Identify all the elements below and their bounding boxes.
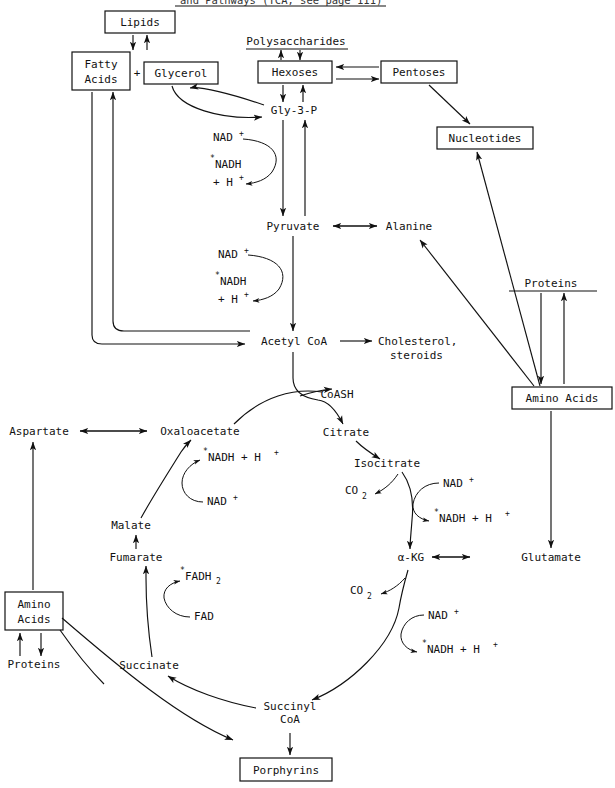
cofactor-fad: FAD: [194, 610, 214, 623]
arrow-aminoacids-to-alanine: [420, 240, 534, 386]
nadh-kgdh-text: NADH + H: [427, 643, 480, 656]
cofactor-nadh-glycolysis: * NADH + H +: [210, 154, 244, 189]
label-pyruvate: Pyruvate: [267, 220, 320, 233]
nad-kgdh-sup: +: [454, 607, 459, 616]
cofactor-nad-mdh: NAD +: [207, 493, 238, 508]
arc-oxaloacetate-to-citrate: [234, 391, 322, 424]
proteins-left-text: Proteins: [8, 658, 61, 671]
box-amino-acids-left[interactable]: Amino Acids: [5, 592, 63, 630]
box-glycerol-label: Glycerol: [155, 67, 208, 80]
label-oxaloacetate: Oxaloacetate: [160, 425, 239, 438]
page-title: and Pathways (TCA, see page 111): [175, 0, 386, 6]
nadh-glycolysis-h: + H: [213, 176, 233, 189]
nad-idh-text: NAD: [443, 477, 463, 490]
box-hexoses[interactable]: Hexoses: [258, 61, 332, 83]
cofactor-nadh-kgdh: * NADH + H +: [422, 639, 498, 656]
label-fumarate: Fumarate: [110, 551, 163, 564]
arrow-co2-idh: [375, 474, 398, 494]
cofactor-nadh-mdh: * NADH + H +: [203, 447, 279, 464]
cofactor-nad-idh: NAD +: [443, 475, 474, 490]
pathway-diagram-page: and Pathways (TCA, see page 111) Lipids …: [0, 0, 615, 788]
box-amino-acids-left-line2: Acids: [17, 613, 50, 626]
arrow-gly3p-to-glycerol: [190, 88, 264, 105]
box-glycerol[interactable]: Glycerol: [144, 62, 218, 84]
box-porphyrins-label: Porphyrins: [253, 764, 319, 777]
box-nucleotides-label: Nucleotides: [449, 132, 522, 145]
label-aspartate: Aspartate: [9, 425, 69, 438]
nad-mdh-sup: +: [233, 493, 238, 502]
plus-sign-lipid: +: [134, 67, 141, 80]
box-nucleotides[interactable]: Nucleotides: [437, 127, 533, 149]
nadh-glycolysis-text: NADH: [215, 158, 242, 171]
co2-kgdh-text: CO: [350, 584, 363, 597]
cofactor-nad-glycolysis: NAD +: [213, 129, 244, 144]
arc-nad-nadh-kgdh: [401, 615, 424, 652]
arc-nad-nadh-mdh: [182, 460, 203, 502]
cofactor-nadh-idh: * NADH + H +: [434, 508, 510, 525]
label-acetyl-coa: Acetyl CoA: [261, 335, 328, 348]
arrow-aminoacids-left-to-porphyrins: [62, 618, 233, 740]
nadh-mdh-text: NADH + H: [208, 451, 261, 464]
cofactor-nad-kgdh: NAD +: [428, 607, 459, 622]
arc-nad-nadh-glycolysis: [243, 139, 276, 184]
label-cholesterol: Cholesterol,: [378, 335, 457, 348]
arrow-malate-to-oxaloacetate: [141, 440, 191, 518]
box-lipids-label: Lipids: [120, 16, 160, 29]
nadh-idh-text: NADH + H: [439, 512, 492, 525]
nadh-idh-sup: +: [505, 509, 510, 518]
arc-aminoacids-left-branch: [60, 630, 104, 684]
page-title-text: and Pathways (TCA, see page 111): [180, 0, 382, 6]
fadh2-text: FADH: [185, 570, 212, 583]
box-amino-acids-right[interactable]: Amino Acids: [512, 387, 612, 409]
label-alpha-kg: α-KG: [398, 551, 425, 564]
label-co2-kgdh: CO 2: [350, 584, 372, 601]
arrow-co2-kgdh: [381, 578, 405, 594]
label-steroids: steroids: [390, 349, 443, 362]
arc-nad-nadh-pdh: [248, 255, 283, 301]
polysaccharides-text: Polysaccharides: [246, 35, 345, 48]
box-porphyrins[interactable]: Porphyrins: [240, 758, 332, 781]
label-alanine: Alanine: [386, 220, 432, 233]
box-amino-acids-right-label: Amino Acids: [526, 392, 599, 405]
label-polysaccharides: Polysaccharides: [246, 35, 348, 49]
co2-idh-text: CO: [345, 484, 358, 497]
nadh-kgdh-sup: +: [493, 640, 498, 649]
proteins-right-text: Proteins: [525, 277, 578, 290]
box-amino-acids-left-line1: Amino: [17, 598, 50, 611]
arrow-succinylcoa-to-succinate: [168, 676, 256, 708]
nadh-glycolysis-h-sup: +: [239, 173, 244, 182]
arrow-fattyacids-to-acetylcoa: [92, 92, 245, 344]
label-succinyl-coa-line2: CoA: [280, 713, 300, 726]
label-succinate: Succinate: [119, 659, 179, 672]
nadh-mdh-sup: +: [274, 448, 279, 457]
box-fatty-acids-line1: Fatty: [84, 58, 117, 71]
label-proteins-left: Proteins: [8, 658, 61, 671]
nad-pdh-sup: +: [244, 246, 249, 255]
box-pentoses[interactable]: Pentoses: [381, 61, 457, 83]
box-lipids[interactable]: Lipids: [105, 11, 175, 33]
arrow-acetylcoa-into-citrate: [293, 378, 343, 424]
arrow-akg-to-succinylcoa: [312, 608, 399, 700]
nadh-pdh-h: + H: [218, 293, 238, 306]
nadh-pdh-text: NADH: [220, 275, 247, 288]
line-akg-down: [399, 570, 408, 608]
label-gly-3-p: Gly-3-P: [271, 104, 318, 117]
arrow-aminoacids-to-nucleotides: [477, 152, 540, 386]
fad-text: FAD: [194, 610, 214, 623]
fadh2-sub: 2: [216, 577, 221, 586]
co2-idh-sub: 2: [362, 492, 367, 501]
label-succinyl-coa-line1: Succinyl: [264, 700, 317, 713]
arc-fad-fadh2: [164, 581, 190, 617]
nad-glycolysis-text: NAD: [213, 131, 233, 144]
cofactor-fadh2: * FADH 2: [180, 566, 221, 586]
label-malate: Malate: [111, 519, 151, 532]
box-fatty-acids[interactable]: Fatty Acids: [72, 52, 130, 90]
nad-pdh-text: NAD: [218, 248, 238, 261]
label-isocitrate: Isocitrate: [354, 457, 420, 470]
box-hexoses-label: Hexoses: [272, 66, 318, 79]
nad-kgdh-text: NAD: [428, 609, 448, 622]
nad-mdh-text: NAD: [207, 495, 227, 508]
label-proteins-right: Proteins: [509, 277, 597, 291]
nad-glycolysis-sup: +: [239, 129, 244, 138]
label-glutamate: Glutamate: [521, 551, 581, 564]
